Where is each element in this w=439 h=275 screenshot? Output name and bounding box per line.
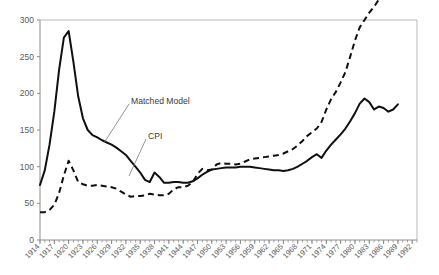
annotation-cpi: CPI	[148, 131, 162, 141]
series-line-cpi	[40, 0, 417, 212]
x-tick-label: 1944	[166, 242, 184, 260]
y-tick-label: 300	[20, 15, 34, 25]
x-tick-label: 1950	[195, 242, 213, 260]
y-tick-label: 250	[20, 52, 34, 62]
chart-container: 050100150200250300 191419171920192319261…	[0, 0, 439, 275]
x-tick-label: 1917	[37, 242, 55, 260]
x-tick-label: 1932	[109, 242, 127, 260]
y-tick-label: 50	[25, 198, 35, 208]
leader-line-matched-model	[104, 104, 129, 143]
y-tick-label: 100	[20, 162, 34, 172]
series-line-matched-model	[40, 31, 398, 185]
x-tick-label: 1974	[309, 242, 327, 260]
x-tick-label: 1929	[95, 242, 113, 260]
x-tick-label: 1926	[80, 242, 98, 260]
x-tick-label: 1965	[266, 242, 284, 260]
x-tick-label: 1959	[238, 242, 256, 260]
x-tick-label: 1980	[338, 242, 356, 260]
x-tick-label: 1941	[152, 242, 170, 260]
x-tick-label: 1923	[66, 242, 84, 260]
x-tick-label: 1989	[381, 242, 399, 260]
x-tick-label: 1968	[281, 242, 299, 260]
x-axis: 1914191719201923192619291932193519381941…	[23, 240, 417, 260]
x-tick-label: 1920	[52, 242, 70, 260]
annotation-matched-model: Matched Model	[131, 96, 190, 106]
line-chart: 050100150200250300 191419171920192319261…	[0, 0, 439, 275]
x-tick-label: 1971	[295, 242, 313, 260]
x-tick-label: 1983	[352, 242, 370, 260]
x-tick-label: 1935	[123, 242, 141, 260]
x-tick-label: 1956	[224, 242, 242, 260]
y-axis: 050100150200250300	[20, 15, 40, 245]
x-tick-label: 1977	[324, 242, 342, 260]
y-tick-label: 150	[20, 125, 34, 135]
y-tick-label: 200	[20, 88, 34, 98]
x-tick-label: 1986	[367, 242, 385, 260]
x-tick-label: 1953	[209, 242, 227, 260]
annotation-leaders	[104, 104, 146, 176]
x-tick-label: 1914	[23, 242, 41, 260]
x-tick-label: 1938	[138, 242, 156, 260]
x-tick-label: 1947	[181, 242, 199, 260]
plot-frame	[40, 20, 417, 240]
x-tick-label: 1992	[395, 242, 413, 260]
series-group	[40, 0, 417, 212]
x-tick-label: 1962	[252, 242, 270, 260]
